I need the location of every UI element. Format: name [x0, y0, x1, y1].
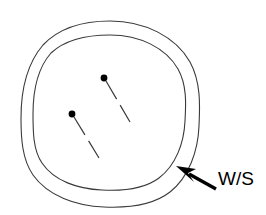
inner-ring: [33, 35, 186, 190]
pin-marker-upper-leader: [106, 81, 130, 122]
outer-ring: [21, 21, 200, 207]
figure-canvas: W/S: [0, 0, 266, 215]
pin-marker-upper-dot: [101, 75, 108, 82]
pin-marker-lower-leader: [74, 117, 99, 158]
ws-leader-arrow: [176, 166, 216, 189]
pin-marker-lower-dot: [69, 111, 76, 118]
ws-leader-arrow-shaft: [189, 174, 216, 189]
pin-marker-lower: [69, 111, 99, 158]
ws-leader-arrow-head: [176, 166, 196, 182]
ws-callout-label: W/S: [218, 169, 254, 188]
pin-marker-upper: [101, 75, 130, 122]
